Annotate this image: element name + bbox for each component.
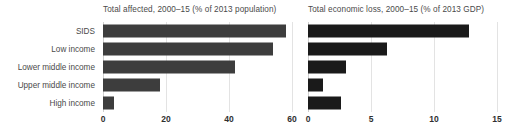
category-label-lower-middle-income: Lower middle income <box>18 62 95 73</box>
bar-row <box>308 76 497 94</box>
x-axis-ticks-total-economic-loss: 0 5 10 15 <box>308 114 497 126</box>
bar-row <box>308 40 497 58</box>
bar-upper-middle-income <box>308 79 323 92</box>
x-tick-10: 10 <box>429 114 438 125</box>
category-axis-labels: SIDS Low income Lower middle income Uppe… <box>0 0 99 131</box>
bar-row <box>308 22 497 40</box>
x-axis-ticks-total-affected: 0 20 40 60 <box>103 114 292 126</box>
x-tick-0: 0 <box>306 114 311 125</box>
category-label-upper-middle-income: Upper middle income <box>18 80 95 91</box>
bar-low-income <box>103 43 273 56</box>
category-label-sids: SIDS <box>76 26 95 37</box>
bar-row <box>308 94 497 112</box>
category-label-low-income: Low income <box>51 44 95 55</box>
bars-total-economic-loss <box>308 22 497 112</box>
category-label-high-income: High income <box>49 98 95 109</box>
x-tick-20: 20 <box>161 114 170 125</box>
bar-high-income <box>308 97 341 110</box>
bar-lower-middle-income <box>308 61 346 74</box>
gridline-15 <box>497 22 498 112</box>
bar-row <box>103 40 292 58</box>
panel-total-economic-loss: Total economic loss, 2000–15 (% of 2013 … <box>308 0 508 131</box>
bar-high-income <box>103 97 114 110</box>
plot-area-total-affected <box>103 22 292 112</box>
bar-row <box>308 58 497 76</box>
bar-sids <box>103 25 286 38</box>
bar-lower-middle-income <box>103 61 235 74</box>
x-tick-60: 60 <box>287 114 296 125</box>
panel-title-total-economic-loss: Total economic loss, 2000–15 (% of 2013 … <box>308 5 484 15</box>
bar-upper-middle-income <box>103 79 160 92</box>
plot-area-total-economic-loss <box>308 22 497 112</box>
bar-row <box>103 22 292 40</box>
x-tick-0: 0 <box>101 114 106 125</box>
bar-sids <box>308 25 469 38</box>
bar-low-income <box>308 43 387 56</box>
x-tick-15: 15 <box>492 114 501 125</box>
panel-total-affected: Total affected, 2000–15 (% of 2013 popul… <box>103 0 298 131</box>
bars-total-affected <box>103 22 292 112</box>
dual-bar-chart-figure: SIDS Low income Lower middle income Uppe… <box>0 0 510 131</box>
bar-row <box>103 76 292 94</box>
x-tick-5: 5 <box>369 114 374 125</box>
gridline-60 <box>292 22 293 112</box>
panel-title-total-affected: Total affected, 2000–15 (% of 2013 popul… <box>103 5 276 15</box>
bar-row <box>103 94 292 112</box>
x-tick-40: 40 <box>224 114 233 125</box>
bar-row <box>103 58 292 76</box>
